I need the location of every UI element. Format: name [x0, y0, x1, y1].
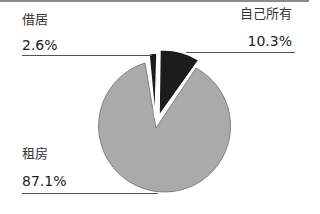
label-renting-name: 租房	[22, 146, 48, 162]
label-renting-value: 87.1%	[22, 173, 66, 189]
label-borrowed-name: 借居	[22, 12, 48, 28]
label-borrowed-value: 2.6%	[22, 37, 58, 53]
label-owned-name: 自己所有	[240, 6, 292, 22]
label-owned-value: 10.3%	[248, 33, 292, 49]
